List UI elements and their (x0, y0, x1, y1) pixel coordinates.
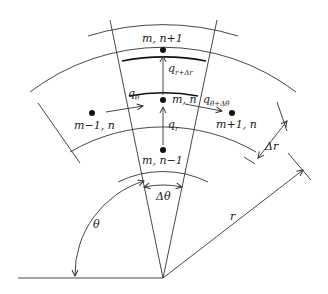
node-center (160, 97, 166, 103)
cell-boundary-top (122, 57, 206, 61)
flux-r-label: qr (168, 118, 179, 133)
delta-r-label: Δr (264, 140, 279, 153)
node-center-label: m, n (172, 93, 197, 106)
node-inner-label: m, n−1 (142, 154, 183, 167)
delta-theta-dimension (144, 185, 182, 187)
node-left-label: m−1, n (74, 119, 115, 132)
node-inner (160, 147, 166, 153)
node-left (89, 110, 95, 116)
polar-grid-diagram: m, n+1 m, n m, n−1 m−1, n m+1, n qr+Δr q… (0, 0, 328, 294)
tick-left (38, 103, 80, 163)
node-outer-label: m, n+1 (142, 32, 183, 45)
flux-theta-label: qθ (128, 87, 140, 102)
node-outer (160, 47, 166, 53)
node-right (229, 110, 235, 116)
flux-r-dr-label: qr+Δr (168, 62, 193, 77)
flux-theta-arrow (106, 106, 143, 112)
delta-theta-label: Δθ (155, 190, 171, 203)
node-right-label: m+1, n (216, 118, 257, 131)
radius-tick (288, 153, 311, 180)
theta-label: θ (93, 218, 100, 231)
flux-theta-dtheta-label: qθ+Δθ (203, 93, 230, 108)
r-label: r (230, 210, 236, 223)
delta-r-tick-inner (244, 157, 255, 164)
arc-inner (118, 172, 208, 182)
theta-arc (75, 181, 144, 276)
radius-line (163, 170, 303, 278)
